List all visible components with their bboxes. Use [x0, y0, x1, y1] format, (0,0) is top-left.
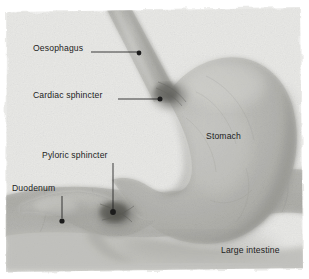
leader-dot-oesophagus: [137, 51, 142, 56]
anatomy-figure: Oesophagus Cardiac sphincter Pyloric sph…: [0, 0, 309, 279]
leader-dot-duodenum: [59, 218, 64, 223]
leader-dot-pyloric-sphincter: [110, 209, 116, 215]
label-cardiac-sphincter: Cardiac sphincter: [33, 91, 102, 100]
label-pyloric-sphincter: Pyloric sphincter: [42, 151, 108, 160]
label-large-intestine: Large intestine: [221, 246, 280, 255]
label-stomach: Stomach: [206, 132, 241, 141]
label-duodenum: Duodenum: [12, 184, 55, 193]
leader-dot-cardiac-sphincter: [158, 97, 163, 102]
stomach-illustration: [0, 0, 309, 279]
label-oesophagus: Oesophagus: [33, 44, 83, 53]
